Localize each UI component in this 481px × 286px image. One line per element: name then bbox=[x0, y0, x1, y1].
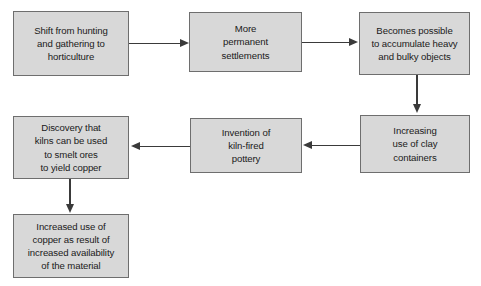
flow-node-increased-use-copper[interactable]: Increased use of copper as result of inc… bbox=[13, 214, 129, 278]
flow-node-shift-from-hunting[interactable]: Shift from hunting and gathering to hort… bbox=[13, 11, 129, 76]
flow-node-label: Increasing use of clay containers bbox=[393, 124, 438, 164]
flow-node-label: Invention of kiln-fired pottery bbox=[222, 126, 270, 166]
arrow-left-icon bbox=[131, 142, 140, 150]
flow-edge-discovery-to-increased-use bbox=[69, 179, 71, 207]
flow-edge-settlements-to-accumulate bbox=[302, 42, 350, 44]
flow-edge-clay-to-pottery bbox=[311, 145, 360, 147]
flow-node-label: Becomes possible to accumulate heavy and… bbox=[371, 24, 457, 64]
flow-node-label: More permanent settlements bbox=[222, 22, 270, 62]
flow-node-discovery-kilns-smelt-ores[interactable]: Discovery that kilns can be used to smel… bbox=[13, 116, 129, 179]
flow-node-invention-kiln-fired-pottery[interactable]: Invention of kiln-fired pottery bbox=[190, 118, 302, 173]
flow-edge-shift-to-settlements bbox=[129, 43, 181, 45]
flow-edge-pottery-to-discovery bbox=[139, 146, 190, 148]
flow-edge-accumulate-to-clay bbox=[416, 75, 418, 107]
flow-node-label: Increased use of copper as result of inc… bbox=[28, 220, 114, 273]
arrow-down-icon bbox=[413, 104, 421, 113]
flowchart-canvas: Shift from hunting and gathering to hort… bbox=[0, 0, 481, 286]
flow-node-label: Discovery that kilns can be used to smel… bbox=[35, 121, 107, 174]
flow-node-more-permanent-settlements[interactable]: More permanent settlements bbox=[189, 12, 302, 72]
arrow-right-icon bbox=[180, 39, 189, 47]
arrow-left-icon bbox=[303, 141, 312, 149]
flow-node-becomes-possible-accumulate[interactable]: Becomes possible to accumulate heavy and… bbox=[359, 12, 470, 75]
arrow-right-icon bbox=[349, 38, 358, 46]
flow-node-label: Shift from hunting and gathering to hort… bbox=[34, 24, 107, 64]
arrow-down-icon bbox=[66, 204, 74, 213]
flow-node-increasing-use-clay-containers[interactable]: Increasing use of clay containers bbox=[360, 115, 470, 173]
